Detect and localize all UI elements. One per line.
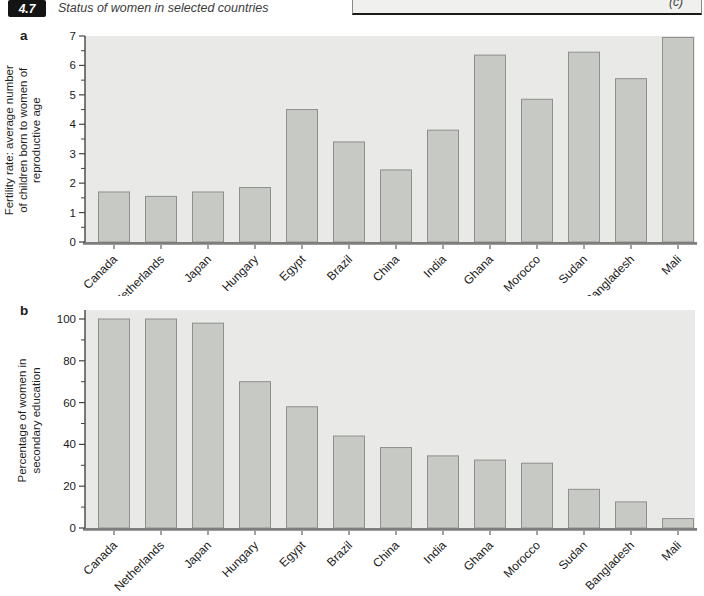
y-tick-label: 6	[70, 59, 76, 71]
bar-japan	[193, 192, 224, 242]
y-tick-label: 7	[70, 30, 76, 42]
figure-title: Status of women in selected countries	[58, 1, 269, 15]
x-tick-label-morocco: Morocco	[501, 538, 544, 581]
x-tick-label-mali: Mali	[659, 252, 684, 277]
bar-brazil	[334, 142, 365, 242]
x-tick-label-sudan: Sudan	[556, 252, 590, 286]
x-tick-label-india: India	[421, 538, 450, 567]
bar-bangladesh	[616, 79, 647, 242]
y-tick-label: 0	[70, 522, 76, 534]
y-tick-label: 20	[63, 480, 76, 492]
x-tick-label-mali: Mali	[659, 538, 684, 563]
bar-ghana	[475, 460, 506, 528]
y-tick-label: 3	[70, 148, 76, 160]
x-tick-label-brazil: Brazil	[324, 538, 355, 569]
bar-egypt	[287, 407, 318, 528]
figure-page: 4.7 Status of women in selected countrie…	[0, 0, 704, 596]
bar-bangladesh	[616, 502, 647, 528]
x-tick-label-sudan: Sudan	[556, 538, 590, 572]
bar-morocco	[522, 99, 553, 242]
bar-hungary	[240, 188, 271, 242]
bar-china	[381, 448, 412, 528]
y-tick-label: 5	[70, 89, 76, 101]
x-tick-label-netherlands: Netherlands	[111, 252, 167, 296]
x-tick-label-hungary: Hungary	[219, 538, 261, 580]
bar-mali	[663, 37, 694, 242]
previous-figure-panel-label: (c)	[669, 0, 683, 9]
bar-canada	[99, 319, 130, 528]
x-tick-label-netherlands: Netherlands	[111, 538, 167, 594]
fertility-rate-bar-chart: 01234567CanadaNetherlandsJapanHungaryEgy…	[0, 30, 704, 296]
x-tick-label-bangladesh: Bangladesh	[582, 252, 637, 296]
x-tick-label-ghana: Ghana	[461, 538, 497, 574]
bar-sudan	[569, 52, 600, 242]
bar-sudan	[569, 489, 600, 528]
x-tick-label-india: India	[421, 252, 450, 281]
x-tick-label-japan: Japan	[181, 538, 214, 571]
bar-canada	[99, 192, 130, 242]
x-tick-label-ghana: Ghana	[461, 252, 497, 288]
bar-india	[428, 130, 459, 242]
x-tick-label-egypt: Egypt	[277, 252, 309, 284]
x-tick-label-china: China	[370, 252, 402, 284]
x-tick-label-brazil: Brazil	[324, 252, 355, 283]
y-tick-label: 60	[63, 397, 76, 409]
y-tick-label: 2	[70, 177, 76, 189]
bar-mali	[663, 519, 694, 528]
secondary-education-bar-chart: 020406080100CanadaNetherlandsJapanHungar…	[0, 302, 704, 596]
y-tick-label: 40	[63, 438, 76, 450]
y-tick-label: 0	[70, 236, 76, 248]
bar-ghana	[475, 55, 506, 242]
x-tick-label-bangladesh: Bangladesh	[582, 538, 637, 593]
bar-netherlands	[146, 319, 177, 528]
bar-egypt	[287, 110, 318, 242]
y-tick-label: 1	[70, 207, 76, 219]
bar-hungary	[240, 382, 271, 528]
bar-china	[381, 170, 412, 242]
bar-netherlands	[146, 196, 177, 242]
bar-india	[428, 456, 459, 528]
y-tick-label: 80	[63, 355, 76, 367]
x-tick-label-canada: Canada	[80, 538, 120, 578]
x-tick-label-china: China	[370, 538, 402, 570]
figure-number-badge: 4.7	[8, 0, 46, 17]
x-tick-label-japan: Japan	[181, 252, 214, 285]
x-tick-label-canada: Canada	[80, 252, 120, 292]
bar-japan	[193, 323, 224, 528]
x-tick-label-morocco: Morocco	[501, 252, 544, 295]
bar-brazil	[334, 436, 365, 528]
bar-morocco	[522, 463, 553, 528]
x-tick-label-hungary: Hungary	[219, 252, 261, 294]
y-tick-label: 100	[57, 313, 76, 325]
y-tick-label: 4	[70, 118, 77, 130]
x-tick-label-egypt: Egypt	[277, 538, 309, 570]
previous-figure-cutoff: (c)	[352, 0, 702, 15]
